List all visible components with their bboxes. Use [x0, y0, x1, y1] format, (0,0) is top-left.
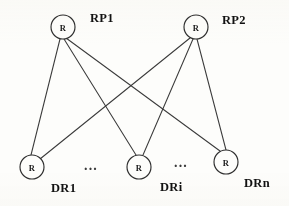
edge-group	[31, 38, 226, 159]
node-label-drn: DRn	[244, 176, 270, 190]
ellipsis-left: ...	[84, 158, 98, 173]
node-label-rp1: RP1	[90, 11, 114, 25]
edge-rp1-drn	[66, 38, 220, 151]
node-label-dri: DRi	[160, 180, 183, 194]
edge-rp1-dri	[64, 39, 136, 155]
node-rp1[interactable]: R	[51, 15, 75, 39]
edge-rp2-drn	[197, 39, 226, 150]
node-letter-drn: R	[223, 158, 230, 168]
node-letter-rp1: R	[60, 23, 67, 33]
node-rp2[interactable]: R	[184, 15, 208, 39]
node-label-rp2: RP2	[222, 13, 246, 27]
bipartite-graph-svg: R RP1 R RP2 R DR1 R DRi R DRn ... ...	[0, 0, 289, 206]
node-letter-rp2: R	[193, 23, 200, 33]
node-label-dr1: DR1	[51, 181, 76, 195]
node-letter-dr1: R	[29, 163, 36, 173]
ellipsis-right: ...	[174, 155, 188, 170]
node-dr1[interactable]: R	[20, 155, 44, 179]
edge-rp1-dr1	[31, 39, 60, 155]
diagram-figure: R RP1 R RP2 R DR1 R DRi R DRn ... ...	[0, 0, 289, 206]
node-letter-dri: R	[136, 163, 143, 173]
node-drn[interactable]: R	[214, 150, 238, 174]
node-dri[interactable]: R	[127, 155, 151, 179]
